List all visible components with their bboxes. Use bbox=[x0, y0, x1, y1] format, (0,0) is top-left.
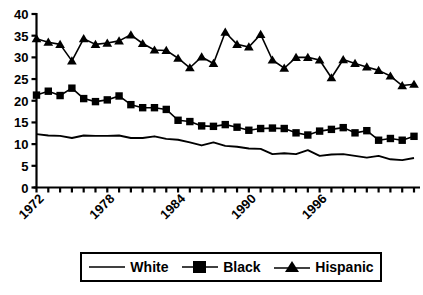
y-tick-label: 35 bbox=[14, 29, 28, 44]
chart-legend: White Black Hispanic bbox=[80, 252, 382, 282]
x-axis-labels: 19721978198419901996 bbox=[16, 190, 330, 222]
legend-label-hispanic: Hispanic bbox=[315, 259, 373, 275]
series-hispanic bbox=[32, 28, 419, 90]
y-tick-label: 40 bbox=[14, 7, 28, 22]
series-white bbox=[37, 134, 415, 160]
legend-item-hispanic: Hispanic bbox=[273, 259, 373, 275]
legend-label-black: Black bbox=[223, 259, 260, 275]
y-tick-label: 15 bbox=[14, 115, 28, 130]
y-tick-label: 5 bbox=[21, 159, 28, 174]
legend-triangle-symbol-hispanic bbox=[273, 260, 311, 274]
chart-plot-area: 051015202530354019721978198419901996 bbox=[0, 0, 423, 295]
y-tick-label: 0 bbox=[21, 181, 28, 196]
y-tick-label: 10 bbox=[14, 137, 28, 152]
y-tick-label: 30 bbox=[14, 50, 28, 65]
x-tick-label: 1978 bbox=[86, 191, 117, 222]
status-dropout-rate-chart: 051015202530354019721978198419901996 Whi… bbox=[0, 0, 423, 295]
y-axis-ticks: 0510152025303540 bbox=[14, 7, 36, 196]
legend-label-white: White bbox=[130, 259, 168, 275]
legend-line-symbol-white bbox=[88, 260, 126, 274]
x-tick-label: 1984 bbox=[157, 190, 189, 222]
x-tick-label: 1990 bbox=[228, 191, 259, 222]
x-tick-label: 1996 bbox=[299, 191, 330, 222]
x-tick-label: 1972 bbox=[16, 191, 47, 222]
legend-item-black: Black bbox=[181, 259, 260, 275]
y-tick-label: 20 bbox=[14, 94, 28, 109]
y-tick-label: 25 bbox=[14, 72, 28, 87]
legend-item-white: White bbox=[88, 259, 168, 275]
legend-square-symbol-black bbox=[181, 260, 219, 274]
